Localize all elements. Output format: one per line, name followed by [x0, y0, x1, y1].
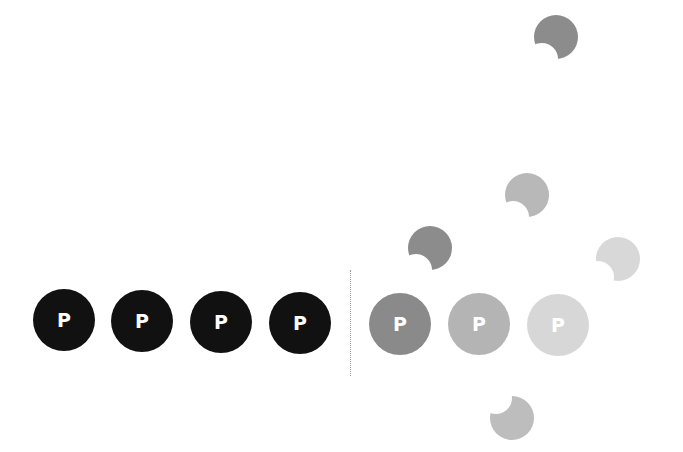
p-token-label: P	[135, 310, 149, 332]
p-token-label: P	[551, 314, 565, 336]
dotted-divider	[350, 270, 351, 376]
p-token-light-gray[interactable]: P	[527, 294, 589, 356]
p-token-label: P	[472, 313, 486, 335]
p-token-label: P	[214, 311, 228, 333]
p-token-black-4[interactable]: P	[269, 292, 331, 354]
crescent-shape-3	[406, 224, 454, 272]
crescent-shape-1	[532, 13, 580, 61]
crescent-shape-5	[488, 394, 536, 442]
p-token-black-3[interactable]: P	[190, 291, 252, 353]
p-token-label: P	[293, 312, 307, 334]
p-token-medium-gray[interactable]: P	[448, 293, 510, 355]
p-token-black-1[interactable]: P	[33, 289, 95, 351]
p-token-dark-gray[interactable]: P	[369, 293, 431, 355]
p-token-black-2[interactable]: P	[111, 290, 173, 352]
crescent-shape-4	[594, 235, 642, 283]
crescent-shape-2	[503, 171, 551, 219]
p-token-label: P	[57, 309, 71, 331]
p-token-label: P	[393, 313, 407, 335]
